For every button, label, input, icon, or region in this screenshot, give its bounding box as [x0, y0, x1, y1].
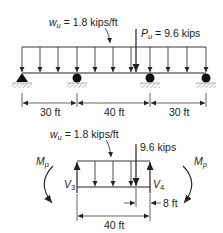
right-moment-arrow [183, 166, 192, 203]
beam-diagram: wu = 1.8 kips/ft Pu = 9.6 kips [0, 0, 223, 233]
roller-support-1 [67, 74, 87, 89]
point-load-label: Pu = 9.6 kips [141, 27, 200, 41]
distributed-load-label: wu = 1.8 kips/ft [49, 16, 118, 30]
length-dimension [77, 194, 150, 221]
span-dimensions [22, 93, 206, 107]
fbd-load-leader-arrow [106, 140, 111, 157]
fbd-distributed-load-label: wu = 1.8 kips/ft [50, 128, 119, 142]
fbd-point-load-label: 9.6 kips [140, 141, 176, 153]
offset-dimension-label: 8 ft [163, 197, 178, 209]
left-moment-label: Mp [36, 155, 49, 169]
pin-support [12, 73, 32, 88]
shear-v3-label: V3 [64, 178, 75, 192]
span-2-label: 40 ft [104, 106, 125, 118]
roller-support-2 [140, 74, 160, 89]
free-body-diagram: wu = 1.8 kips/ft 9.6 kips V3 V4 Mp Mp [36, 128, 207, 231]
length-dimension-label: 40 ft [104, 219, 125, 231]
shear-v4-label: V4 [153, 178, 164, 192]
offset-dimension [124, 188, 161, 207]
distributed-load-arrows [22, 47, 206, 72]
load-leader-arrow [105, 28, 110, 43]
span-1-label: 30 ft [40, 106, 61, 118]
continuous-beam: wu = 1.8 kips/ft Pu = 9.6 kips [12, 16, 216, 118]
right-moment-label: Mp [194, 155, 207, 169]
left-moment-arrow [44, 166, 53, 203]
roller-support-3 [196, 74, 216, 89]
span-3-label: 30 ft [169, 106, 190, 118]
fbd-distributed-load-arrows [95, 161, 131, 186]
